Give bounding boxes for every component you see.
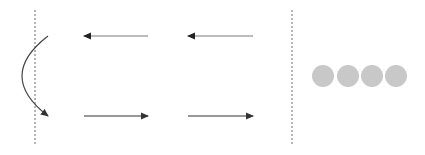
diagram-svg [0,0,425,155]
circle-group [312,65,407,87]
circle-4 [385,65,407,87]
diagram-canvas [0,0,425,155]
circle-2 [337,65,359,87]
arrow-group [84,36,253,116]
divider-group [35,10,292,146]
circle-1 [312,65,334,87]
circle-3 [361,65,383,87]
